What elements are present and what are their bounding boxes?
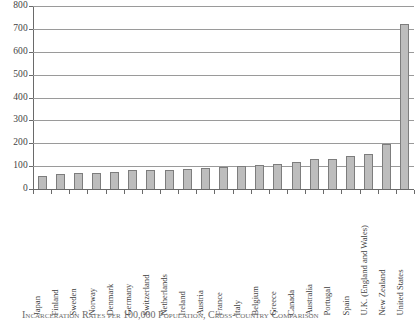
x-tick-mark: [414, 190, 415, 194]
x-tick-mark: [69, 190, 70, 194]
bar: [128, 170, 137, 189]
bar: [74, 173, 83, 189]
bar: [219, 167, 228, 189]
bar: [364, 154, 373, 189]
bar: [38, 176, 47, 189]
bar: [92, 173, 101, 189]
x-tick-mark: [305, 190, 306, 194]
figure-caption-text: Incarceration Rates per 100,000 Populati…: [22, 309, 319, 321]
y-tick-label-200: 200: [13, 138, 28, 148]
figure-caption: Incarceration Rates per 100,000 Populati…: [0, 307, 417, 321]
x-tick-mark: [360, 190, 361, 194]
x-label-slot: Germany: [129, 196, 130, 316]
x-label-slot: Australia: [310, 196, 311, 316]
x-tick-mark: [233, 190, 234, 194]
plot-area: [33, 6, 414, 189]
x-label-slot: Canada: [292, 196, 293, 316]
y-tick-label-500: 500: [13, 70, 28, 80]
bar: [237, 166, 246, 189]
x-tick-mark: [378, 190, 379, 194]
x-tick-mark: [142, 190, 143, 194]
x-axis-label: U.K. (England and Wales): [360, 225, 369, 316]
y-tick-label-600: 600: [13, 47, 28, 57]
x-label-slot: Greece: [274, 196, 275, 316]
bar: [292, 162, 301, 189]
x-label-slot: Finland: [56, 196, 57, 316]
x-label-slot: Belgium: [256, 196, 257, 316]
x-label-slot: Ireland: [183, 196, 184, 316]
bar: [273, 164, 282, 189]
x-label-slot: U.K. (England and Wales): [365, 196, 366, 316]
x-tick-mark: [269, 190, 270, 194]
bar: [328, 159, 337, 189]
x-label-slot: Switzerland: [147, 196, 148, 316]
y-tick-label-300: 300: [13, 115, 28, 125]
bar: [310, 159, 319, 189]
x-tick-mark: [106, 190, 107, 194]
x-tick-mark: [341, 190, 342, 194]
x-tick-mark: [287, 190, 288, 194]
x-tick-mark: [396, 190, 397, 194]
x-label-slot: Netherlands: [165, 196, 166, 316]
bar-chart-figure: 0100200300400500600700800 JapanFinlandSw…: [0, 0, 417, 321]
x-label-slot: Portugal: [328, 196, 329, 316]
x-axis-category-labels: JapanFinlandSwedenNorwayDenmarkGermanySw…: [33, 196, 414, 316]
x-label-slot: United States: [401, 196, 402, 316]
bar: [56, 174, 65, 189]
x-axis-tick-marks: [33, 190, 414, 195]
x-label-slot: Austria: [201, 196, 202, 316]
x-tick-mark: [51, 190, 52, 194]
x-tick-mark: [323, 190, 324, 194]
y-tick-label-700: 700: [13, 24, 28, 34]
bar-series: [33, 6, 414, 189]
x-label-slot: Italy: [238, 196, 239, 316]
bar: [110, 172, 119, 189]
x-tick-mark: [214, 190, 215, 194]
x-label-slot: Denmark: [111, 196, 112, 316]
bar: [346, 156, 355, 189]
x-label-slot: Japan: [38, 196, 39, 316]
x-tick-mark: [124, 190, 125, 194]
bar: [400, 24, 409, 189]
y-tick-label-800: 800: [13, 1, 28, 11]
x-tick-mark: [196, 190, 197, 194]
bar: [255, 165, 264, 189]
bar: [382, 144, 391, 189]
y-tick-label-100: 100: [13, 161, 28, 171]
bar: [146, 170, 155, 189]
bar: [165, 170, 174, 189]
x-tick-mark: [33, 190, 34, 194]
x-label-slot: France: [220, 196, 221, 316]
x-tick-mark: [251, 190, 252, 194]
x-label-slot: Sweden: [74, 196, 75, 316]
x-tick-mark: [178, 190, 179, 194]
x-label-slot: Spain: [347, 196, 348, 316]
bar: [183, 169, 192, 189]
x-tick-mark: [87, 190, 88, 194]
y-tick-label-0: 0: [23, 184, 28, 194]
x-label-slot: New Zealand: [383, 196, 384, 316]
bar: [201, 168, 210, 189]
y-tick-label-400: 400: [13, 93, 28, 103]
x-label-slot: Norway: [93, 196, 94, 316]
y-axis-tick-labels: 0100200300400500600700800: [0, 0, 33, 195]
x-tick-mark: [160, 190, 161, 194]
